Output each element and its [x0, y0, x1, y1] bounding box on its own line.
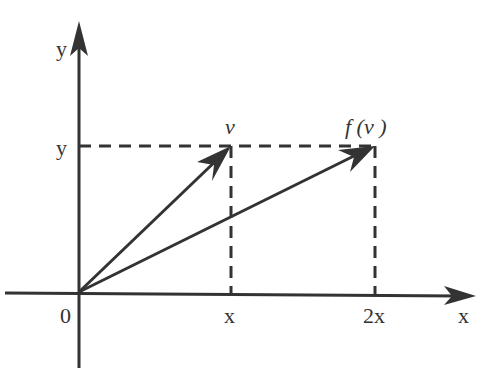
origin-label: 0: [60, 303, 71, 328]
vector-f-v: [79, 146, 375, 292]
2x-tick-label: 2x: [363, 303, 385, 328]
vector-diagram: y y 0 x 2x x v f (v ): [0, 0, 493, 371]
vector-v: [79, 146, 231, 292]
y-tick-label: y: [56, 135, 67, 160]
y-axis-label: y: [56, 36, 67, 61]
y-axis: [70, 21, 88, 368]
vector-v-label: v: [225, 114, 235, 139]
x-axis: [5, 286, 476, 305]
x-tick-label: x: [224, 303, 235, 328]
vector-fv-arrow-icon: [338, 146, 375, 172]
diagram-canvas: y y 0 x 2x x v f (v ): [0, 0, 493, 371]
vector-fv-label: f (v ): [345, 114, 387, 139]
x-axis-label: x: [458, 303, 469, 328]
